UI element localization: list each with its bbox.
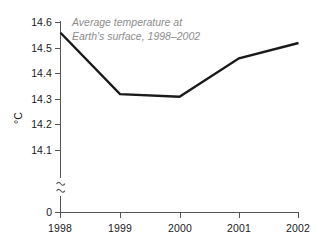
x-tick-label-2001: 2001 <box>227 222 251 234</box>
x-tick-label-1999: 1999 <box>108 222 132 234</box>
temperature-line-chart: °C 14.6 14.5 14.4 14.3 14.2 14.1 0 1998 … <box>0 0 329 242</box>
x-tick-label-2002: 2002 <box>286 222 310 234</box>
y-axis-ticks <box>55 23 61 213</box>
x-tick-label-1998: 1998 <box>48 222 72 234</box>
y-tick-label-14-4: 14.4 <box>14 67 52 79</box>
x-tick-label-2000: 2000 <box>168 222 192 234</box>
chart-title: Average temperature at Earth's surface, … <box>72 16 252 43</box>
x-axis-ticks <box>61 213 299 219</box>
y-axis-break-symbol <box>57 182 65 192</box>
y-tick-label-14-2: 14.2 <box>14 118 52 130</box>
y-tick-label-14-1: 14.1 <box>14 144 52 156</box>
y-tick-label-zero: 0 <box>14 206 52 218</box>
y-tick-label-14-5: 14.5 <box>14 42 52 54</box>
y-tick-label-14-6: 14.6 <box>14 16 52 28</box>
y-tick-label-14-3: 14.3 <box>14 93 52 105</box>
